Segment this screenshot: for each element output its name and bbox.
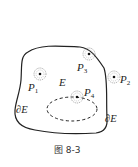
svg-text:P2: P2 [119,73,131,87]
point-p4: P4 [71,86,95,103]
svg-text:P4: P4 [83,86,95,100]
point-p1: P1 [27,68,46,95]
p2-sub: 2 [127,79,131,87]
point-p3: P3 [76,48,95,75]
set-boundary-diagram: P1 P3 P2 P4 E ∂E ∂E 图 8-3 [0,0,138,167]
region-label: E [58,76,66,88]
outer-boundary-label: ∂E [105,113,117,124]
p3-sub: 3 [84,67,88,75]
inner-boundary-label: ∂E [16,104,28,115]
point-p2: P2 [108,71,131,87]
svg-text:P1: P1 [27,81,39,95]
p4-sub: 4 [91,92,95,100]
p1-sub: 1 [35,87,39,95]
figure-caption: 图 8-3 [54,145,81,155]
svg-text:P3: P3 [76,61,88,75]
